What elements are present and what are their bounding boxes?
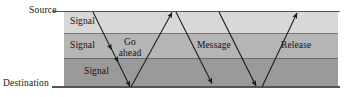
label-message: Message xyxy=(197,41,231,51)
label-signal-top: Signal xyxy=(70,17,95,27)
label-go-ahead-line1: Go xyxy=(113,37,147,48)
destination-axis-label: Destination xyxy=(3,78,49,88)
label-go-ahead: Go ahead xyxy=(113,37,147,58)
source-axis-label: Source xyxy=(29,5,57,15)
band-divider-lower xyxy=(64,58,338,59)
label-signal-bottom: Signal xyxy=(84,67,109,77)
label-release: Release xyxy=(281,41,311,51)
label-go-ahead-line2: ahead xyxy=(113,48,147,59)
label-signal-middle: Signal xyxy=(70,41,95,51)
signal-propagation-figure: Source Destination Signal Signal Signal … xyxy=(0,0,351,97)
band-divider-upper xyxy=(64,33,338,34)
destination-rule xyxy=(52,86,340,87)
source-rule xyxy=(52,11,340,12)
band-top xyxy=(64,12,338,33)
